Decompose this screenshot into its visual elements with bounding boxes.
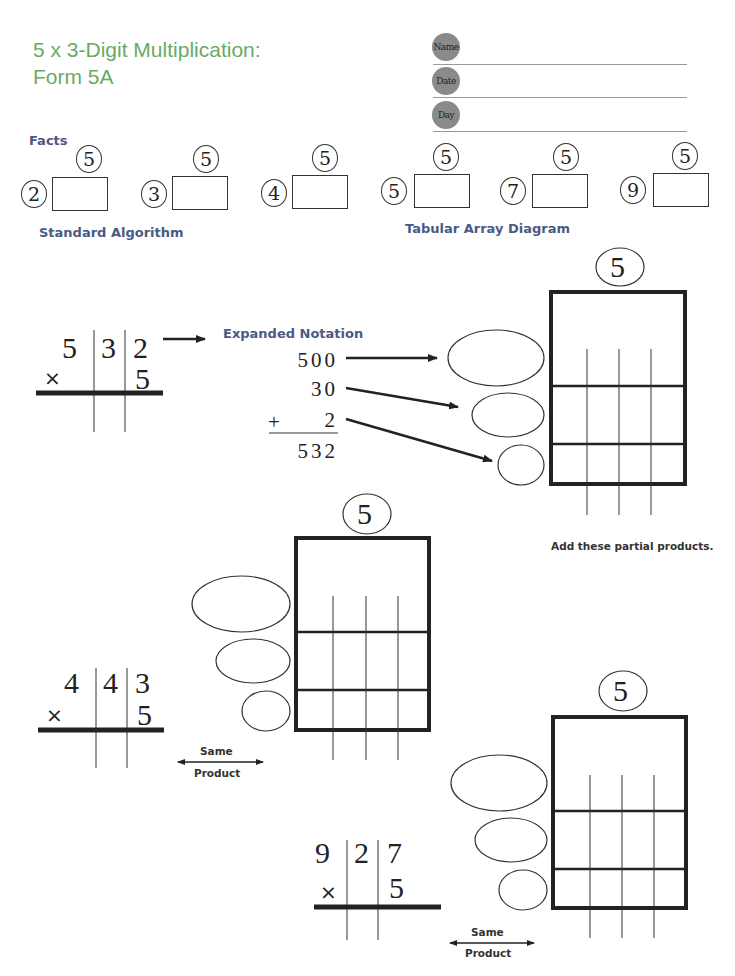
- array-2-partial-hundreds-oval[interactable]: [192, 576, 290, 632]
- problem-3-product-label: Product: [465, 947, 511, 959]
- expanded-total: 532: [268, 439, 338, 464]
- problem-3-same-label: Same: [471, 926, 504, 938]
- array-2-partial-ones-oval[interactable]: [242, 691, 290, 731]
- array-1-partial-tens-oval[interactable]: [472, 393, 544, 437]
- problem-1-answer-area[interactable]: [40, 398, 90, 428]
- problem-2-ones-digit: 3: [135, 668, 150, 698]
- array-1-partial-ones-oval[interactable]: [498, 445, 544, 485]
- problem-3-tens-digit: 2: [354, 838, 369, 868]
- problem-1-times-sign: ×: [44, 366, 61, 390]
- array-3-partial-hundreds-oval[interactable]: [451, 755, 547, 811]
- array-1-factor: 5: [610, 252, 625, 282]
- problem-2-multiplier: 5: [137, 700, 152, 730]
- diagram-lines: [0, 0, 735, 976]
- problem-1-tens-digit: 3: [101, 333, 116, 363]
- expanded-tens: 30: [268, 377, 338, 402]
- problem-1-hundreds-digit: 5: [62, 333, 77, 363]
- array-3-factor: 5: [613, 676, 628, 706]
- array-2-partial-tens-oval[interactable]: [216, 639, 290, 683]
- array-2-factor: 5: [357, 499, 372, 529]
- problem-2-times-sign: ×: [46, 703, 63, 727]
- expanded-plus-sign: +: [268, 410, 280, 435]
- problem-3-hundreds-digit: 9: [315, 838, 330, 868]
- problem-3-answer-area[interactable]: [318, 912, 368, 942]
- problem-2-tens-digit: 4: [103, 668, 118, 698]
- problem-2-answer-area[interactable]: [42, 735, 92, 765]
- problem-2-product-label: Product: [194, 767, 240, 779]
- problem-3-multiplier: 5: [389, 873, 404, 903]
- expanded-hundreds: 500: [268, 348, 338, 373]
- problem-2-hundreds-digit: 4: [64, 668, 79, 698]
- add-partial-products-note: Add these partial products.: [551, 540, 714, 552]
- array-1-partial-hundreds-oval[interactable]: [448, 330, 544, 386]
- array-3-partial-tens-oval[interactable]: [475, 818, 547, 862]
- problem-3-times-sign: ×: [320, 880, 337, 904]
- problem-3-ones-digit: 7: [387, 838, 402, 868]
- problem-1-ones-digit: 2: [133, 333, 148, 363]
- problem-2-same-label: Same: [200, 745, 233, 757]
- problem-1-multiplier: 5: [135, 364, 150, 394]
- array-3-partial-ones-oval[interactable]: [499, 870, 547, 910]
